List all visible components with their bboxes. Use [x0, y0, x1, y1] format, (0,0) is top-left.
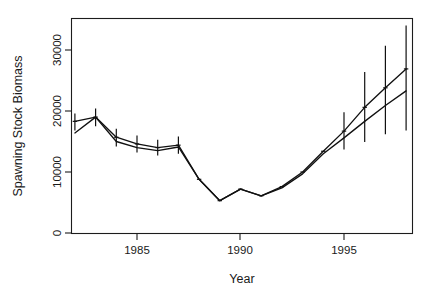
y-axis-ticks — [65, 50, 72, 233]
y-tick-label-10000: 10000 — [51, 156, 63, 188]
y-axis-title: Spawning Stock Biomass — [11, 55, 25, 196]
x-tick-label-1995: 1995 — [331, 244, 357, 256]
series-line — [75, 69, 406, 201]
error-bars — [75, 26, 406, 156]
y-tick-label-20000: 20000 — [51, 95, 63, 127]
x-tick-label-1990: 1990 — [227, 244, 253, 256]
x-axis-title: Year — [229, 272, 254, 286]
series-1 — [75, 91, 406, 201]
data-series-layer — [73, 26, 409, 201]
x-tick-label-1985: 1985 — [124, 244, 150, 256]
x-axis-ticks — [137, 234, 344, 241]
series-0 — [73, 26, 409, 201]
chart-figure: 0 10000 20000 30000 1985 1990 1995 Year … — [0, 0, 434, 297]
plot-frame — [72, 19, 413, 234]
spawning-stock-biomass-plot: 0 10000 20000 30000 1985 1990 1995 Year … — [0, 0, 434, 297]
y-axis-tick-labels: 0 10000 20000 30000 — [51, 34, 63, 236]
x-axis-tick-labels: 1985 1990 1995 — [124, 244, 357, 256]
series-line — [75, 91, 406, 201]
y-tick-label-0: 0 — [51, 230, 63, 236]
y-tick-label-30000: 30000 — [51, 34, 63, 66]
point-markers — [73, 69, 409, 201]
